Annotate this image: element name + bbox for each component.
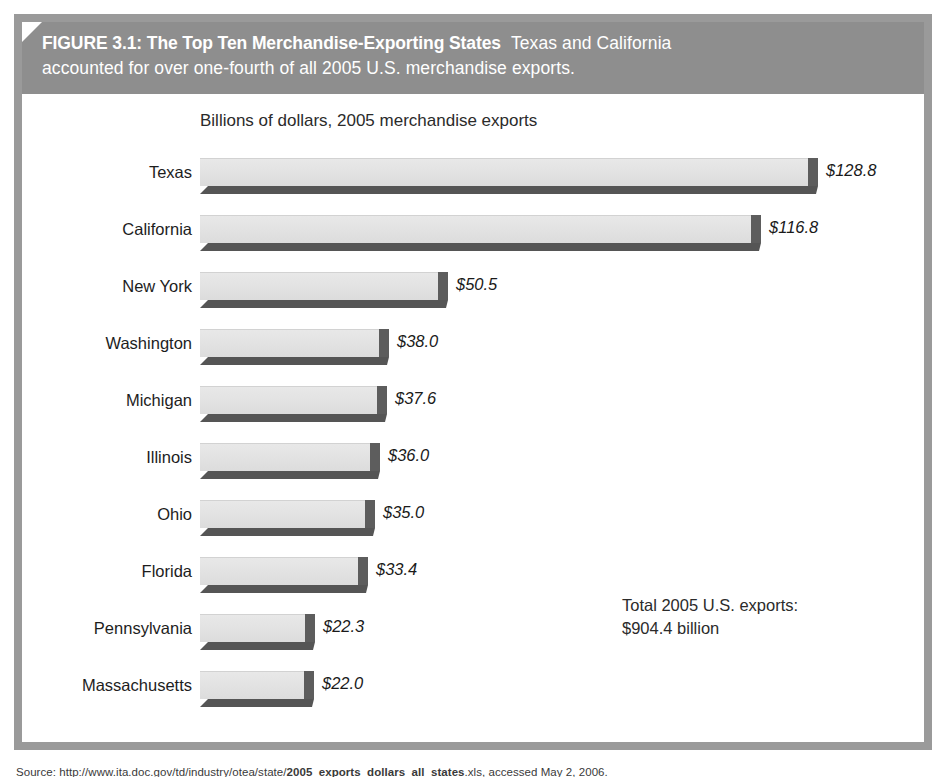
figure-title: The Top Ten Merchandise-Exporting States <box>147 33 501 53</box>
bar-value-label: $128.8 <box>826 161 876 180</box>
bar[interactable] <box>200 158 808 194</box>
bar-bottom-face <box>200 471 380 479</box>
bar-value-label: $36.0 <box>388 446 429 465</box>
bar-front-face <box>200 443 370 471</box>
bar-row: Ohio$35.0 <box>22 494 924 540</box>
bar-front-face <box>200 158 808 186</box>
bar-front-face <box>200 614 305 642</box>
bar-bottom-face <box>200 585 368 593</box>
bar-front-face <box>200 671 304 699</box>
source-prefix: Source: <box>16 766 59 777</box>
bar[interactable] <box>200 557 358 593</box>
bar[interactable] <box>200 671 304 707</box>
bar-side-face <box>438 272 448 300</box>
source-file: 2005_exports_dollars <box>287 766 406 777</box>
bar-front-face <box>200 272 438 300</box>
bar-value-label: $38.0 <box>397 332 438 351</box>
bar[interactable] <box>200 500 365 536</box>
bar-bottom-face <box>200 357 389 365</box>
bar-side-face <box>751 215 761 243</box>
bar[interactable] <box>200 443 370 479</box>
bar[interactable] <box>200 386 377 422</box>
source-ext: _all_states <box>405 766 464 777</box>
bar[interactable] <box>200 215 751 251</box>
bar-side-face <box>370 443 380 471</box>
bar-bottom-face <box>200 243 761 251</box>
bar-front-face <box>200 215 751 243</box>
bar-value-label: $116.8 <box>769 218 818 237</box>
bar-front-face <box>200 329 379 357</box>
total-exports-line-1: Total 2005 U.S. exports: <box>622 594 798 617</box>
bar-bottom-face <box>200 528 375 536</box>
bar-chart-plot: Texas$128.8California$116.8New York$50.5… <box>22 96 924 742</box>
bar-value-label: $35.0 <box>383 503 424 522</box>
bar-value-label: $22.0 <box>322 674 363 693</box>
bar-row: Massachusetts$22.0 <box>22 665 924 711</box>
bar-category-label: Texas <box>22 163 192 182</box>
bar-row: New York$50.5 <box>22 266 924 312</box>
bar-category-label: Florida <box>22 562 192 581</box>
bar-side-face <box>358 557 368 585</box>
bar-category-label: New York <box>22 277 192 296</box>
bar-value-label: $33.4 <box>376 560 417 579</box>
figure-header-line-1: FIGURE 3.1: The Top Ten Merchandise-Expo… <box>42 31 906 56</box>
bar-category-label: Illinois <box>22 448 192 467</box>
bar-bottom-face <box>200 699 314 707</box>
bar-bottom-face <box>200 300 448 308</box>
source-url: http://www.ita.doc.gov/td/industry/otea/… <box>59 766 286 777</box>
source-suffix: .xls, accessed May 2, 2006. <box>465 766 608 777</box>
bar-category-label: Michigan <box>22 391 192 410</box>
bar-side-face <box>808 158 818 186</box>
bar-side-face <box>365 500 375 528</box>
bar-bottom-face <box>200 642 315 650</box>
figure-number: FIGURE 3.1: <box>42 33 142 53</box>
bar-category-label: California <box>22 220 192 239</box>
bar[interactable] <box>200 614 305 650</box>
bar-front-face <box>200 557 358 585</box>
figure-caption-part-2: accounted for over one-fourth of all 200… <box>42 58 575 78</box>
bar-category-label: Massachusetts <box>22 676 192 695</box>
bar-category-label: Washington <box>22 334 192 353</box>
bar-row: Illinois$36.0 <box>22 437 924 483</box>
source-note-text: Source: http://www.ita.doc.gov/td/indust… <box>16 766 608 777</box>
bar-row: Florida$33.4 <box>22 551 924 597</box>
bar-row: California$116.8 <box>22 209 924 255</box>
figure-caption-part-1: Texas and California <box>511 33 672 53</box>
bar[interactable] <box>200 329 379 365</box>
bar-bottom-face <box>200 414 387 422</box>
bar-front-face <box>200 500 365 528</box>
bar-side-face <box>379 329 389 357</box>
total-exports-annotation: Total 2005 U.S. exports: $904.4 billion <box>622 594 798 640</box>
bar-bottom-face <box>200 186 818 194</box>
bar-category-label: Pennsylvania <box>22 619 192 638</box>
bar-side-face <box>305 614 315 642</box>
bar-row: Texas$128.8 <box>22 152 924 198</box>
bar-side-face <box>377 386 387 414</box>
bar-front-face <box>200 386 377 414</box>
bar-row: Washington$38.0 <box>22 323 924 369</box>
chart-area: Billions of dollars, 2005 merchandise ex… <box>22 96 924 742</box>
bar[interactable] <box>200 272 438 308</box>
bar-value-label: $50.5 <box>456 275 497 294</box>
total-exports-line-2: $904.4 billion <box>622 617 798 640</box>
bar-row: Michigan$37.6 <box>22 380 924 426</box>
figure-header-band: FIGURE 3.1: The Top Ten Merchandise-Expo… <box>22 22 924 94</box>
figure-header-line-2: accounted for over one-fourth of all 200… <box>42 56 906 81</box>
bar-value-label: $37.6 <box>395 389 436 408</box>
bar-side-face <box>304 671 314 699</box>
bar-category-label: Ohio <box>22 505 192 524</box>
source-note: Source: http://www.ita.doc.gov/td/indust… <box>16 766 936 777</box>
bar-value-label: $22.3 <box>323 617 364 636</box>
